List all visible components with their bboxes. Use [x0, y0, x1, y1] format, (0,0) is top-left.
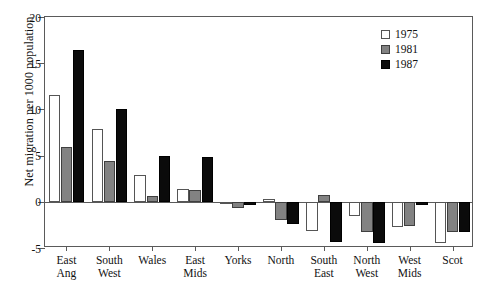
x-tick-label: North West: [353, 254, 380, 280]
bar: [306, 202, 318, 232]
x-tick-label: South East: [310, 254, 337, 280]
bar: [318, 195, 330, 201]
bar: [349, 202, 361, 216]
legend-label: 1987: [395, 58, 418, 72]
bar: [73, 50, 85, 202]
x-tick-mark: [238, 246, 239, 251]
bar: [232, 202, 244, 208]
y-tick: 10: [45, 109, 46, 110]
bar: [104, 161, 116, 202]
x-tick-label: Yorks: [225, 254, 252, 267]
bar-chart: Net migration per 1000 population -50510…: [0, 0, 479, 285]
x-tick-mark: [453, 246, 454, 251]
y-tick: -5: [45, 248, 46, 249]
x-tick-mark: [109, 246, 110, 251]
bar: [159, 156, 171, 202]
legend-item: 1987: [381, 58, 418, 72]
x-tick-label: Wales: [138, 254, 166, 267]
y-tick-label: 0: [35, 196, 41, 208]
bar: [61, 147, 73, 202]
legend-swatch: [381, 30, 390, 39]
y-tick: 5: [45, 156, 46, 157]
y-axis-title: Net migration per 1000 population: [22, 7, 37, 197]
bar: [373, 202, 385, 244]
y-tick: 20: [45, 17, 46, 18]
bar: [116, 109, 128, 201]
chart-legend: 197519811987: [381, 28, 418, 73]
bar: [189, 190, 201, 202]
bar: [177, 189, 189, 202]
x-tick-label: East Mids: [183, 254, 207, 280]
x-tick-mark: [410, 246, 411, 251]
x-tick-label: East Ang: [57, 254, 77, 280]
bar: [275, 202, 287, 220]
bar: [263, 199, 275, 202]
y-tick: 15: [45, 63, 46, 64]
y-tick-label: 20: [30, 12, 42, 24]
x-tick-mark: [66, 246, 67, 251]
x-tick-mark: [324, 246, 325, 251]
x-tick-mark: [367, 246, 368, 251]
x-tick-label: North: [268, 254, 295, 267]
bar: [330, 202, 342, 242]
legend-label: 1981: [395, 43, 418, 57]
bar: [49, 95, 61, 202]
bar: [147, 196, 159, 202]
bar: [220, 202, 232, 204]
legend-label: 1975: [395, 28, 418, 42]
bar: [202, 157, 214, 201]
y-tick-label: -5: [31, 243, 41, 255]
bar: [416, 202, 428, 205]
bar: [392, 202, 404, 227]
bar: [92, 129, 104, 202]
bar: [435, 202, 447, 244]
legend-item: 1975: [381, 28, 418, 42]
x-tick-mark: [152, 246, 153, 251]
y-tick-label: 10: [30, 104, 42, 116]
bar: [404, 202, 416, 226]
bar: [244, 202, 256, 206]
x-tick-mark: [281, 246, 282, 251]
bar: [361, 202, 373, 232]
legend-swatch: [381, 45, 390, 54]
y-tick-label: 15: [30, 58, 42, 70]
bar: [447, 202, 459, 232]
legend-item: 1981: [381, 43, 418, 57]
bar: [287, 202, 299, 224]
bar: [134, 175, 146, 202]
y-tick-label: 5: [35, 150, 41, 162]
legend-swatch: [381, 60, 390, 69]
x-tick-label: Scot: [442, 254, 462, 267]
bar: [459, 202, 471, 232]
y-tick: 0: [45, 202, 46, 203]
x-tick-label: West Mids: [398, 254, 422, 280]
x-tick-mark: [195, 246, 196, 251]
x-tick-label: South West: [96, 254, 123, 280]
